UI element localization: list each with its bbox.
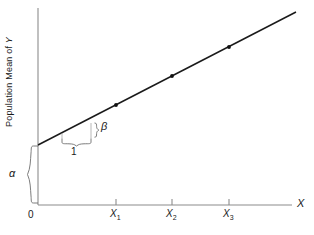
x-tick-label-2-sub: 2 (173, 214, 177, 221)
data-point-marker (170, 74, 174, 78)
unit-run-label: 1 (71, 147, 77, 157)
x-tick-label-1-base: X (110, 208, 117, 219)
y-axis-title-variable: Y (4, 37, 14, 43)
alpha-brace (28, 146, 34, 203)
regression-line-figure: Population Mean of Y X 0 X1 X2 X3 α β 1 (0, 0, 314, 235)
x-tick-label-2: X2 (166, 209, 177, 221)
x-tick-label-3-sub: 3 (230, 214, 234, 221)
x-tick-label-1-sub: 1 (117, 214, 121, 221)
data-point-marker (227, 45, 231, 49)
x-tick-label-2-base: X (166, 208, 173, 219)
alpha-intercept-label: α (9, 168, 15, 179)
y-axis-title: Population Mean of Y (5, 37, 14, 127)
beta-slope-label: β (101, 121, 107, 132)
plot-canvas (0, 0, 314, 235)
x-tick-label-3-base: X (223, 208, 230, 219)
x-tick-label-3: X3 (223, 209, 234, 221)
run-bracket (62, 139, 91, 147)
x-axis-title: X (297, 198, 304, 209)
x-tick-label-1: X1 (110, 209, 121, 221)
rise-bracket (95, 123, 99, 137)
y-axis-title-prefix: Population Mean of (4, 43, 14, 127)
regression-line (38, 12, 296, 145)
data-point-marker (114, 103, 118, 107)
origin-label: 0 (28, 210, 34, 220)
